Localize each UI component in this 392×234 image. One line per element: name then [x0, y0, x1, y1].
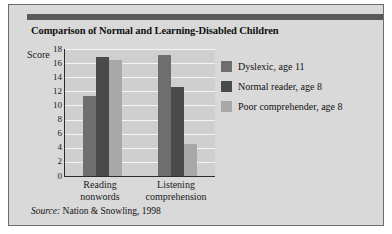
source-text: Nation & Snowling, 1998: [63, 206, 161, 216]
gridline: [65, 91, 215, 92]
y-axis-line: [64, 49, 65, 177]
x-axis-group-label-0: Readingnonwords: [67, 179, 133, 202]
gridline: [65, 49, 215, 50]
y-tick-label: 0: [48, 172, 62, 181]
legend-swatch: [221, 61, 232, 72]
y-tick-label: 6: [48, 129, 62, 138]
x-axis-group-label-line: comprehension: [133, 191, 219, 203]
gridline: [65, 77, 215, 78]
legend-item[interactable]: Dyslexic, age 11: [221, 57, 381, 75]
top-accent-bar: [27, 14, 383, 20]
bar: [184, 144, 197, 176]
bar: [83, 96, 96, 176]
y-tick-label: 8: [48, 115, 62, 124]
legend-swatch: [221, 101, 232, 112]
plot-wrap: [65, 49, 215, 176]
plot-area: [65, 49, 215, 176]
bar: [96, 57, 109, 176]
chart-title: Comparison of Normal and Learning-Disabl…: [31, 25, 379, 36]
legend-label: Poor comprehender, age 8: [238, 101, 343, 112]
bar: [158, 55, 171, 176]
legend-label: Normal reader, age 8: [238, 81, 322, 92]
legend-label: Dyslexic, age 11: [238, 61, 305, 72]
y-tick-label: 12: [48, 87, 62, 96]
y-tick-label: 2: [48, 157, 62, 166]
y-tick-label: 16: [48, 59, 62, 68]
y-tick-label: 14: [48, 73, 62, 82]
x-axis-group-label-line: Listening: [133, 179, 219, 191]
figure-frame: Comparison of Normal and Learning-Disabl…: [8, 4, 384, 226]
chart-legend: Dyslexic, age 11Normal reader, age 8Poor…: [221, 57, 381, 117]
y-tick-label: 4: [48, 143, 62, 152]
x-axis-line: [64, 176, 215, 177]
x-axis-group-label-line: Reading: [67, 179, 133, 191]
source-prefix: Source:: [31, 206, 60, 216]
y-tick-label: 10: [48, 101, 62, 110]
bar: [171, 87, 184, 176]
x-axis-group-label-1: Listeningcomprehension: [133, 179, 219, 202]
x-axis-group-label-line: nonwords: [67, 191, 133, 203]
source-line: Source: Nation & Snowling, 1998: [31, 206, 161, 216]
gridline: [65, 63, 215, 64]
y-axis-tick-labels: 024681012141618: [45, 49, 62, 176]
y-tick-label: 18: [48, 45, 62, 54]
legend-swatch: [221, 81, 232, 92]
legend-item[interactable]: Poor comprehender, age 8: [221, 97, 381, 115]
bar: [109, 60, 122, 176]
legend-item[interactable]: Normal reader, age 8: [221, 77, 381, 95]
